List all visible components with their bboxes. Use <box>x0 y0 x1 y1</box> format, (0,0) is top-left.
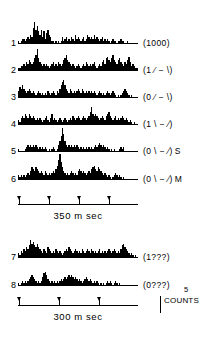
axis-line <box>18 204 138 205</box>
scale-bar-line <box>160 296 161 313</box>
histogram-bars-1 <box>18 16 138 43</box>
histogram-row: 5 (0 \ − ⁄)S <box>0 122 205 152</box>
histogram-plot <box>18 43 138 71</box>
axis-tick-arrow <box>19 196 20 205</box>
histogram-row: 2 (1 ⁄ − \) <box>0 41 205 71</box>
histogram-bars-2 <box>18 43 138 70</box>
psth-figure-panel: 1 (1000) 2 (1 ⁄ − \) 3 (0 ⁄ − \) 4 <box>0 0 205 337</box>
time-axis-350 <box>18 192 138 208</box>
histogram-row: 7 (1???) <box>0 228 205 258</box>
histogram-bars-6 <box>18 152 138 179</box>
axis-tick-arrow <box>109 196 110 205</box>
histogram-bars-4 <box>18 97 138 124</box>
scale-bar-value: 5 <box>169 286 203 294</box>
histogram-bars-7 <box>18 230 138 257</box>
row-number: 6 <box>4 175 16 184</box>
axis-tick-arrow <box>59 297 60 306</box>
condition-suffix: M <box>175 174 182 184</box>
histogram-baseline <box>18 179 138 180</box>
histogram-plot <box>18 124 138 152</box>
axis-tick-arrow <box>19 297 20 306</box>
condition-code: (0 \ − ⁄) <box>143 174 173 184</box>
scale-bar-unit: COUNTS <box>164 296 199 305</box>
histogram-plot <box>18 152 138 180</box>
histogram-row: 6 (0 \ − ⁄)M <box>0 150 205 180</box>
histogram-plot <box>18 16 138 44</box>
histogram-baseline <box>18 285 138 286</box>
row-number: 8 <box>4 281 16 290</box>
axis-tick-arrow <box>49 196 50 205</box>
histogram-plot <box>18 230 138 258</box>
histogram-row: 3 (0 ⁄ − \) <box>0 68 205 98</box>
axis-label-300: 300 m sec <box>18 311 138 322</box>
histogram-plot <box>18 258 138 286</box>
histogram-bars-8 <box>18 258 138 285</box>
histogram-bars-3 <box>18 70 138 97</box>
axis-tick-arrow <box>79 196 80 205</box>
axis-line <box>18 305 138 306</box>
time-axis-300 <box>18 293 138 309</box>
histogram-plot <box>18 70 138 98</box>
histogram-row: 1 (1000) <box>0 14 205 44</box>
histogram-row: 8 (0???) <box>0 256 205 286</box>
histogram-row: 4 (1 \ − ⁄) <box>0 95 205 125</box>
condition-label: (0???) <box>143 280 172 290</box>
axis-tick-arrow <box>99 297 100 306</box>
histogram-plot <box>18 97 138 125</box>
histogram-bars-5 <box>18 124 138 151</box>
axis-label-350: 350 m sec <box>18 210 138 221</box>
condition-code: (0???) <box>143 280 170 290</box>
condition-label: (0 \ − ⁄)M <box>143 174 182 184</box>
